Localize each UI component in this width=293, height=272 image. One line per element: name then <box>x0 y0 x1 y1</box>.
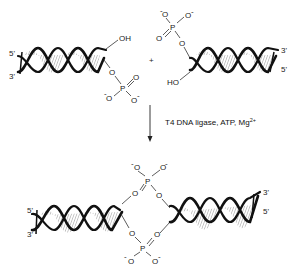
svg-text:O: O <box>156 34 162 43</box>
svg-text:O: O <box>109 68 115 77</box>
three-prime-label: 3' <box>281 46 287 55</box>
five-prime-label: 5' <box>9 49 15 58</box>
svg-text:O: O <box>156 191 162 200</box>
svg-text:O: O <box>162 10 168 19</box>
top-right-hydroxyl-group: HO <box>167 72 190 87</box>
top-left-hydroxyl-group: OH <box>106 34 131 49</box>
top-left-phosphate-group: O P O O - O - <box>104 60 140 105</box>
svg-text:O: O <box>129 229 135 238</box>
reaction-conditions: T4 DNA ligase, ATP, Mg2+ <box>165 117 256 127</box>
three-prime-label: 3' <box>27 230 33 239</box>
three-prime-label: 3' <box>263 188 269 197</box>
svg-text:P: P <box>120 84 125 93</box>
down-arrow-icon <box>148 136 153 142</box>
svg-text:O: O <box>106 94 112 103</box>
upper-phosphodiester-bond: - O O - P O O <box>122 159 170 208</box>
svg-text:-: - <box>124 252 127 261</box>
svg-text:P: P <box>145 177 150 186</box>
svg-text:-: - <box>137 91 140 100</box>
reaction-arrow <box>148 105 153 142</box>
product-left-dna-duplex: 5' 3' <box>27 206 122 239</box>
svg-text:P: P <box>140 244 145 253</box>
svg-text:O: O <box>134 163 140 172</box>
five-prime-label: 5' <box>281 65 287 74</box>
svg-text:O: O <box>154 230 160 239</box>
svg-text:-: - <box>158 252 161 261</box>
svg-text:O: O <box>132 189 138 198</box>
top-right-dna-duplex: 3' 5' <box>190 46 287 74</box>
top-left-dna-duplex: 5' 3' <box>9 48 106 81</box>
five-prime-label: 5' <box>27 206 33 215</box>
svg-text:O: O <box>128 257 134 266</box>
svg-text:-: - <box>104 89 107 98</box>
three-prime-label: 3' <box>9 72 15 81</box>
lower-phosphodiester-bond: O P O O - O - <box>121 214 170 266</box>
ligation-diagram: 5' 3' OH O P O O - O - + - O O - P O O <box>0 0 293 272</box>
svg-text:-: - <box>165 159 168 168</box>
svg-text:O: O <box>179 39 185 48</box>
hydroxyl-oh: OH <box>119 34 131 43</box>
plus-sign: + <box>149 56 154 65</box>
svg-text:P: P <box>170 23 175 32</box>
svg-text:O: O <box>133 73 139 82</box>
hydroxyl-ho: HO <box>167 78 179 87</box>
five-prime-label: 5' <box>263 207 269 216</box>
product-right-dna-duplex: 3' 5' <box>170 188 269 230</box>
top-right-phosphate-group: - O O - P O O <box>156 6 194 58</box>
svg-text:-: - <box>191 7 194 16</box>
